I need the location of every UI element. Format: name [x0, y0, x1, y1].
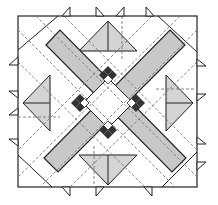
quilt-block-svg: [0, 0, 218, 205]
quilt-diagram: Quilt block diagram: [0, 0, 218, 205]
